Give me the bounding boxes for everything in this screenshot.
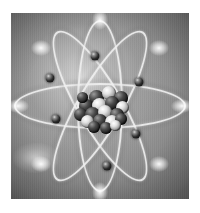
- image-canvas: [0, 0, 200, 213]
- atom-illustration: [11, 13, 189, 199]
- electron-upper-left: [46, 74, 55, 83]
- electron-top: [90, 51, 99, 60]
- electron-group: [11, 13, 189, 199]
- electron-bottom: [103, 161, 112, 170]
- electron-left: [51, 115, 60, 124]
- electron-lower-right: [131, 129, 140, 138]
- electron-upper-right: [135, 77, 144, 86]
